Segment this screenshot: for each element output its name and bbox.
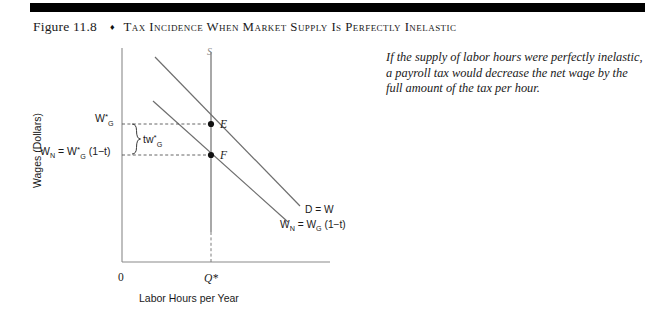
demand-net-base2: W [306,219,316,230]
demand-net-tail: (1−t) [322,219,346,230]
y-tick-label-gross-wage: W*G [95,112,114,128]
net-wage-tail: (1−t) [86,145,111,157]
demand-net-base: W [280,219,290,230]
y-axis-title: Wages (Dollars) [31,113,43,188]
gross-wage-sub: G [108,119,114,128]
x-axis-title: Labor Hours per Year [139,292,239,304]
demand-curve-gross [155,57,300,206]
demand-net-equals: = [295,219,307,230]
tax-wedge-sub: G [157,140,163,149]
point-f-label: F [219,149,228,161]
demand-curve-net-label: WN = WG (1−t) [280,219,346,233]
tax-wedge-brace [132,124,141,154]
origin-label: 0 [118,271,124,283]
net-wage-base2: W [67,145,77,157]
demand-curve-gross-label: D = W [305,204,334,215]
supply-curve-label: S [207,46,212,57]
x-tick-label-quantity: Q* [204,272,218,284]
net-wage-equals: = [55,145,67,157]
figure-plot: E F S tw*G W*G WN = W*G (1−t) D = W WN =… [0,0,663,320]
tax-wedge-base: tw [143,133,154,145]
point-e-label: E [219,118,227,130]
gross-wage-base: W [95,112,105,124]
point-e-marker [208,121,214,127]
point-f-marker [208,152,214,158]
tax-wedge-label: tw*G [143,133,163,149]
y-tick-label-net-wage: WN = W*G (1−t) [40,145,111,161]
